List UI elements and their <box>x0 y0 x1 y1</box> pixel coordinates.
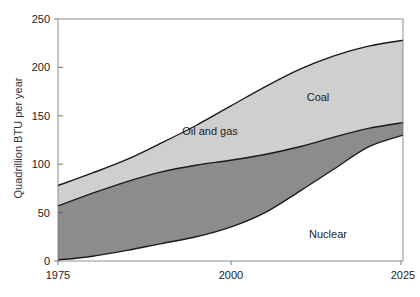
oil-and-gas-label: Oil and gas <box>182 125 238 137</box>
nuclear-label: Nuclear <box>309 228 347 240</box>
y-tick-150: 150 <box>32 110 50 122</box>
coal-label: Coal <box>307 91 330 103</box>
energy-area-chart: 0 50 100 150 200 250 1975 2000 2025 Quad… <box>0 0 420 297</box>
y-tick-50: 50 <box>38 207 50 219</box>
x-tick-2025: 2025 <box>391 269 415 281</box>
x-tick-2000: 2000 <box>219 269 243 281</box>
x-axis <box>58 261 401 265</box>
chart-areas <box>58 40 403 260</box>
x-tick-1975: 1975 <box>46 269 70 281</box>
y-axis-label: Quadrillion BTU per year <box>12 77 24 198</box>
y-tick-100: 100 <box>32 158 50 170</box>
y-tick-250: 250 <box>32 13 50 25</box>
y-tick-200: 200 <box>32 61 50 73</box>
y-tick-0: 0 <box>44 255 50 267</box>
